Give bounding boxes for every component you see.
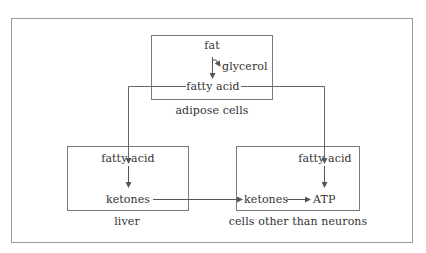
other-cells-caption: cells other than neurons	[229, 215, 368, 228]
liver-caption: liver	[114, 215, 140, 228]
liver-fatty-acid-label: fatty acid	[101, 152, 154, 165]
other-cells-ketones-label: ketones	[244, 193, 288, 206]
other-cells-fatty-acid-label: fatty acid	[298, 152, 351, 165]
atp-label: ATP	[313, 193, 335, 206]
glycerol-label: glycerol	[222, 60, 268, 73]
arrow-fat-to-glycerol	[213, 60, 221, 66]
outer-frame	[12, 19, 413, 243]
adipose-cells-caption: adipose cells	[175, 104, 248, 117]
fat-label: fat	[204, 39, 219, 52]
liver-ketones-label: ketones	[106, 193, 150, 206]
adipose-fatty-acid-label: fatty acid	[186, 80, 239, 93]
